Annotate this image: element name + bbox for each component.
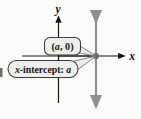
ordered-pair-callout-label: (a, 0) xyxy=(51,41,73,53)
x-intercept-callout[interactable]: x-intercept: a xyxy=(8,61,78,78)
x-intercept-diagram: y x (a, 0) x-intercept: a xyxy=(0,0,141,119)
figure-background xyxy=(0,0,141,119)
x-intercept-word: -intercept: xyxy=(20,64,66,75)
x-intercept-a-value: a xyxy=(66,64,71,75)
edge-artifact-mark xyxy=(0,68,3,77)
y-axis-label: y xyxy=(53,3,61,16)
ordered-pair-comma-zero: , 0) xyxy=(60,41,74,53)
x-intercept-callout-label: x-intercept: a xyxy=(14,64,71,75)
x-axis-label: x xyxy=(128,50,135,62)
figure-container: y x (a, 0) x-intercept: a xyxy=(0,0,141,119)
ordered-pair-callout[interactable]: (a, 0) xyxy=(45,38,81,56)
